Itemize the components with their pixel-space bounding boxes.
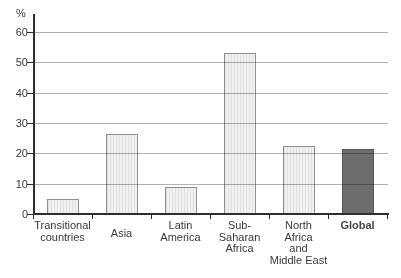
y-tick-label-20: 20 xyxy=(0,148,28,159)
gridline-10 xyxy=(35,184,388,185)
bar-chart: % 0102030405060Transitional countriesAsi… xyxy=(0,0,401,278)
x-axis-tick-6 xyxy=(387,215,388,219)
x-axis-tick-3 xyxy=(210,215,211,219)
gridline-40 xyxy=(35,93,388,94)
y-tick-label-50: 50 xyxy=(0,57,28,68)
gridline-20 xyxy=(35,153,388,154)
y-tick-label-40: 40 xyxy=(0,88,28,99)
y-axis-tick-40 xyxy=(27,93,33,94)
y-axis-line xyxy=(33,14,35,215)
bar-asia xyxy=(106,134,138,214)
bar-north-africa-and-middle-east xyxy=(283,146,315,214)
y-tick-label-0: 0 xyxy=(0,209,28,220)
y-axis-unit-label: % xyxy=(16,7,26,19)
y-tick-label-60: 60 xyxy=(0,27,28,38)
gridline-30 xyxy=(35,123,388,124)
y-axis-tick-20 xyxy=(27,153,33,154)
bar-latin-america xyxy=(165,187,197,214)
y-axis-tick-30 xyxy=(27,123,33,124)
gridline-50 xyxy=(35,62,388,63)
x-axis-tick-4 xyxy=(269,215,270,219)
y-tick-label-10: 10 xyxy=(0,179,28,190)
category-label-global: Global xyxy=(320,220,395,232)
bar-transitional-countries xyxy=(47,199,79,214)
x-axis-tick-2 xyxy=(151,215,152,219)
gridline-60 xyxy=(35,32,388,33)
bar-sub-saharan-africa xyxy=(224,53,256,214)
bar-global xyxy=(342,149,374,214)
y-tick-label-30: 30 xyxy=(0,118,28,129)
x-axis-tick-0 xyxy=(33,215,34,219)
x-axis-tick-5 xyxy=(328,215,329,219)
x-axis-tick-1 xyxy=(92,215,93,219)
x-axis-line xyxy=(33,213,389,215)
y-axis-tick-10 xyxy=(27,184,33,185)
y-axis-tick-60 xyxy=(27,32,33,33)
y-axis-tick-50 xyxy=(27,62,33,63)
